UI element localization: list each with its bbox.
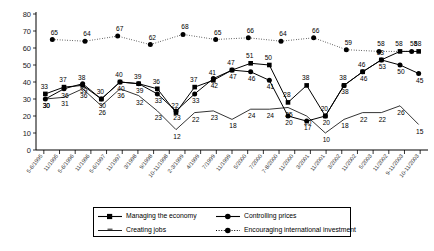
data-point-label: 18 <box>341 122 349 129</box>
data-point-label: 47 <box>227 59 235 66</box>
y-axis-tick-label: 70 <box>23 27 31 36</box>
data-point-label: 53 <box>379 63 387 70</box>
data-point-label: 65 <box>214 29 222 36</box>
data-point-label: 46 <box>358 61 366 68</box>
data-point-label: 41 <box>267 83 275 90</box>
data-point-label: 31 <box>61 100 69 107</box>
x-axis-tick-label: 11/2002 <box>340 153 357 172</box>
legend-item-creating-jobs[interactable]: Creating jobs <box>97 223 215 237</box>
data-point-label: 20 <box>304 119 312 126</box>
data-point-marker <box>379 57 384 62</box>
data-point-label: 67 <box>116 25 124 32</box>
data-point-label: 38 <box>339 74 347 81</box>
data-point-label: 28 <box>283 91 291 98</box>
data-point-marker <box>155 87 160 92</box>
x-axis-tick-label: 5/2000 <box>232 153 247 170</box>
data-point-label: 22 <box>360 116 368 123</box>
data-point-marker <box>230 68 235 73</box>
data-point-marker <box>148 42 153 47</box>
y-axis-tick-label: 80 <box>23 10 31 19</box>
data-point-marker <box>409 49 414 54</box>
data-point-marker <box>304 83 309 88</box>
data-point-label: 37 <box>190 76 198 83</box>
data-point-label: 50 <box>397 68 405 75</box>
data-point-label: 32 <box>136 99 144 106</box>
data-point-label: 50 <box>265 54 273 61</box>
x-axis-tick-label: 5-6/1996 <box>57 153 75 174</box>
x-axis-tick-label: 11/1999 <box>215 153 232 172</box>
data-point-label: 25 <box>285 111 293 118</box>
data-point-label: 23 <box>173 114 181 121</box>
data-point-label: 38 <box>341 88 349 95</box>
data-point-marker <box>377 49 382 54</box>
data-point-label: 46 <box>248 75 256 82</box>
y-axis-tick-label: 0 <box>27 146 31 155</box>
data-point-label: 23 <box>211 114 219 121</box>
x-axis-tick-label: 5/2003 <box>358 153 373 170</box>
legend-item-encouraging-international-investment[interactable]: Encouraging international investment <box>215 223 355 237</box>
legend-label: Creating jobs <box>126 227 166 234</box>
data-point-marker <box>62 86 67 91</box>
y-axis-tick-label: 50 <box>23 61 31 70</box>
data-point-label: 12 <box>173 133 181 140</box>
data-point-label: 62 <box>149 34 157 41</box>
data-point-marker <box>248 61 253 66</box>
data-point-label: 30 <box>97 88 105 95</box>
data-point-marker <box>323 114 328 119</box>
data-point-label: 51 <box>246 52 254 59</box>
data-point-marker <box>155 91 160 96</box>
x-axis-tick-label: 3/1998 <box>122 153 137 170</box>
data-point-marker <box>267 78 272 83</box>
data-point-label: 33 <box>155 97 163 104</box>
x-axis-tick-label: 9/1998 <box>138 153 153 170</box>
data-point-marker <box>267 63 272 68</box>
y-axis-tick-label: 30 <box>23 95 31 104</box>
data-point-label: 36 <box>117 92 125 99</box>
data-point-marker <box>248 69 253 74</box>
x-axis-tick-label: 5-6/1997 <box>88 153 106 174</box>
legend-swatch-circle-dotted <box>215 226 241 235</box>
legend-label: Controlling prices <box>244 213 297 220</box>
data-point-marker <box>342 83 347 88</box>
legend-label: Encouraging international investment <box>244 227 356 234</box>
data-point-label: 22 <box>192 116 200 123</box>
data-point-label: 39 <box>134 73 142 80</box>
legend-swatch-circle-solid <box>215 212 241 221</box>
x-axis-tick-label: 7/1999 <box>201 153 216 170</box>
data-point-marker <box>50 37 55 42</box>
data-point-marker <box>416 49 421 54</box>
data-point-label: 10 <box>323 136 331 143</box>
y-axis-tick-label: 40 <box>23 78 31 87</box>
data-point-marker <box>192 91 197 96</box>
x-axis-tick-label: 11/2000 <box>278 153 295 172</box>
data-point-label: 65 <box>51 29 59 36</box>
data-point-label: 41 <box>209 69 217 76</box>
data-point-marker <box>43 92 48 97</box>
data-point-marker <box>344 47 349 52</box>
data-point-label: 22 <box>379 116 387 123</box>
x-axis-tick-label: 4/1999 <box>185 153 200 170</box>
data-point-label: 58 <box>377 40 385 47</box>
legend-item-managing-the-economy[interactable]: Managing the economy <box>97 209 215 223</box>
x-axis-tick-label: 3/2001 <box>295 153 310 170</box>
data-point-label: 58 <box>410 40 418 47</box>
data-point-marker <box>192 85 197 90</box>
chart-figure: 010203040506070805-6/199511/19955-6/1996… <box>0 0 434 251</box>
data-point-marker <box>311 35 316 40</box>
data-point-label: 38 <box>78 74 86 81</box>
data-point-label: 58 <box>395 40 403 47</box>
data-point-marker <box>279 39 284 44</box>
data-point-label: 23 <box>155 114 163 121</box>
data-point-label: 24 <box>248 112 256 119</box>
data-point-marker <box>99 97 104 102</box>
data-point-marker <box>181 32 186 37</box>
data-point-marker <box>136 81 141 86</box>
data-point-label: 30 <box>43 102 51 109</box>
y-axis-tick-label: 60 <box>23 44 31 53</box>
legend-item-controlling-prices[interactable]: Controlling prices <box>215 209 355 223</box>
x-axis-tick-label: 11/1997 <box>105 153 122 172</box>
data-point-marker <box>83 39 88 44</box>
data-point-label: 33 <box>41 83 49 90</box>
data-point-label: 36 <box>80 92 88 99</box>
x-axis-tick-label: 7-8/2000 <box>260 153 278 174</box>
